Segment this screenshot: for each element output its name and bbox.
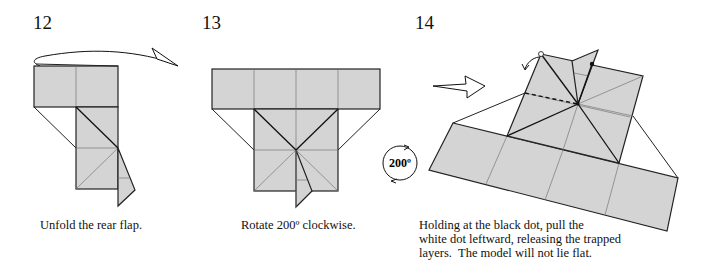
- push-arrow-icon: [433, 76, 485, 98]
- step-14-caption-line-2: white dot leftward, releasing the trappe…: [419, 232, 621, 246]
- step-14-caption-line-3: layers. The model will not lie flat.: [419, 246, 621, 260]
- white-dot-icon: [539, 52, 544, 57]
- unfold-arrowhead-icon: [152, 48, 178, 66]
- unfold-arrow-icon: [34, 51, 170, 66]
- step-13-figure: 200º: [212, 69, 417, 207]
- step-14-figure: [429, 50, 678, 231]
- step-12-caption: Unfold the rear flap.: [40, 218, 142, 232]
- rotation-label: 200º: [389, 156, 411, 170]
- step-14-caption: Holding at the black dot, pull the white…: [419, 218, 621, 260]
- step-13-caption: Rotate 200º clockwise.: [241, 218, 356, 232]
- center-point-icon: [577, 103, 580, 106]
- black-dot-icon: [590, 62, 594, 66]
- step-12-figure: [34, 48, 178, 206]
- step-14-caption-line-1: Holding at the black dot, pull the: [419, 218, 621, 232]
- rotate-200-icon: 200º: [383, 145, 417, 183]
